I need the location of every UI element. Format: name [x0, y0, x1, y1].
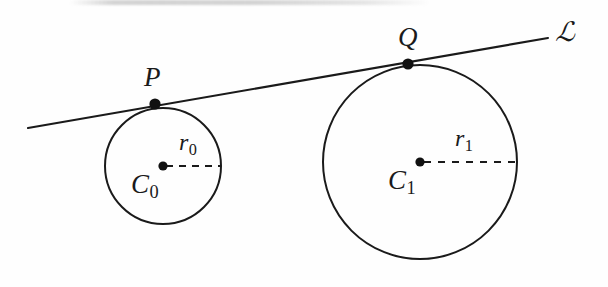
label-center-c1-letter: C [388, 165, 406, 195]
label-center-c0-letter: C [131, 169, 149, 199]
label-radius-r0-letter: r [179, 129, 188, 155]
label-center-c1: C1 [388, 167, 416, 198]
point-marker-c0 [158, 161, 167, 170]
label-center-c1-subscript: 1 [406, 178, 415, 198]
tangent-line-L [28, 38, 548, 128]
label-radius-r0: r0 [179, 130, 197, 158]
point-marker-q [402, 58, 413, 69]
figure-canvas [0, 0, 608, 287]
geometry-figure: P Q C0 C1 r0 r1 ℒ [0, 0, 608, 287]
label-radius-r0-subscript: 0 [189, 140, 197, 159]
label-point-q: Q [398, 24, 418, 51]
point-marker-c1 [415, 157, 424, 166]
label-radius-r1: r1 [455, 126, 473, 154]
point-marker-p [149, 98, 160, 109]
label-line-l: ℒ [555, 18, 576, 45]
label-center-c0: C0 [131, 171, 159, 202]
label-radius-r1-subscript: 1 [465, 136, 473, 155]
label-center-c0-subscript: 0 [149, 182, 158, 202]
label-radius-r1-letter: r [455, 125, 464, 151]
label-point-p: P [144, 64, 161, 91]
